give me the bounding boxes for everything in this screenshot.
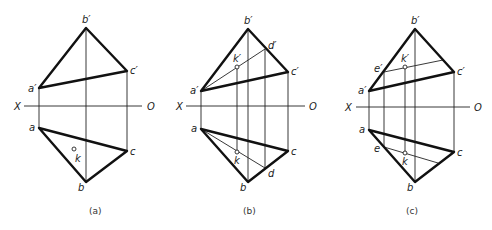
panel-a: X O b′ c′ a′ a c k b (a) (13, 14, 155, 216)
label-d-prime: d′ (268, 40, 277, 51)
label-a: a (359, 124, 365, 135)
point-k (72, 147, 76, 151)
axis-x-label: X (175, 101, 184, 112)
axis-x-label: X (13, 101, 22, 112)
label-k: k (402, 156, 409, 167)
projection-diagram: X O b′ c′ a′ a c k b (a) X O (0, 0, 492, 230)
top-view-triangle (369, 130, 454, 182)
label-a-prime: a′ (190, 85, 199, 96)
label-a-prime: a′ (28, 83, 37, 94)
caption-c: (c) (406, 206, 418, 216)
label-k-prime: k′ (233, 53, 242, 64)
point-k-prime (235, 65, 239, 69)
point-k-prime (403, 65, 407, 69)
label-b-prime: b′ (244, 15, 253, 26)
label-c: c (457, 147, 463, 158)
front-view-triangle (201, 29, 288, 91)
label-b: b (407, 182, 413, 193)
axis-o-label: O (474, 102, 482, 113)
label-k-prime: k′ (401, 53, 410, 64)
label-k: k (75, 153, 82, 164)
panel-c: X O b′ k′ e′ c′ a′ a e c k b (c) (344, 15, 482, 216)
point-k (403, 151, 407, 155)
label-c: c (130, 146, 136, 157)
label-c-prime: c′ (130, 65, 138, 76)
axis-o-label: O (147, 101, 155, 112)
panel-b: X O b′ d′ k′ c′ a′ a c k d b (b) (175, 15, 317, 216)
label-b: b (78, 182, 84, 193)
label-e: e (374, 143, 380, 154)
point-k (235, 150, 239, 154)
label-a: a (29, 122, 35, 133)
label-c: c (291, 146, 297, 157)
label-c-prime: c′ (291, 66, 299, 77)
caption-a: (a) (89, 206, 102, 216)
front-view-triangle (39, 28, 127, 88)
label-c-prime: c′ (457, 66, 465, 77)
top-view-triangle (39, 128, 127, 182)
label-b: b (240, 182, 246, 193)
label-b-prime: b′ (411, 15, 420, 26)
label-d: d (268, 168, 275, 179)
aux-line-e-prime-k-prime (384, 60, 443, 72)
label-a: a (191, 123, 197, 134)
axis-o-label: O (309, 101, 317, 112)
label-e-prime: e′ (374, 63, 383, 74)
label-a-prime: a′ (358, 85, 367, 96)
label-k: k (234, 155, 241, 166)
caption-b: (b) (243, 206, 256, 216)
label-b-prime: b′ (82, 14, 91, 25)
axis-x-label: X (344, 102, 353, 113)
aux-line-a-d (201, 129, 265, 168)
